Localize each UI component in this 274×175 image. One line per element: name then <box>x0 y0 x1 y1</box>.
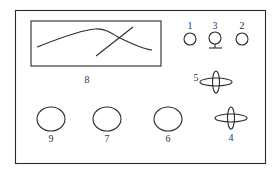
indicator-2-circle <box>236 33 248 45</box>
instrument-panel-diagram: 8 1 3 2 5 4 9 7 6 <box>0 0 274 175</box>
label-1: 1 <box>188 20 193 31</box>
knob-5-horizontal <box>200 78 232 86</box>
knob-4-icon <box>215 107 247 129</box>
label-5: 5 <box>194 72 199 83</box>
indicator-1-circle <box>184 33 196 45</box>
label-2: 2 <box>240 20 245 31</box>
dial-6-ellipse <box>154 107 182 131</box>
label-3: 3 <box>213 20 218 31</box>
label-8: 8 <box>85 74 90 85</box>
label-9: 9 <box>49 133 54 144</box>
display-frame <box>31 21 161 66</box>
display-curve-1 <box>37 29 152 50</box>
dial-9-ellipse <box>37 107 65 131</box>
knob-5-icon <box>200 71 232 93</box>
label-6: 6 <box>166 133 171 144</box>
display-screen <box>31 21 161 66</box>
dial-7-ellipse <box>93 107 121 131</box>
knob-4-horizontal <box>215 114 247 122</box>
terminal-3-icon <box>209 32 222 48</box>
label-4: 4 <box>229 132 234 143</box>
knob-5-vertical <box>213 71 220 93</box>
label-7: 7 <box>105 133 110 144</box>
knob-4-vertical <box>228 107 235 129</box>
terminal-3-circle <box>209 32 221 44</box>
